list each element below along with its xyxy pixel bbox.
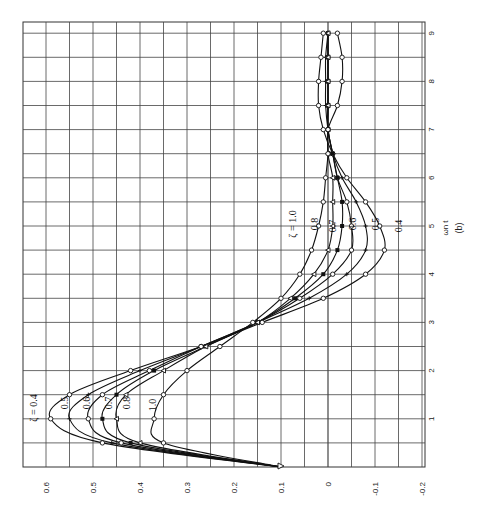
curve-label: 0.4 [393,220,404,233]
marker-circle [340,79,344,83]
time-tick-label: 1 [427,416,436,421]
marker-triangle [330,200,334,205]
x-axis-label: ωn t [441,220,450,236]
marker-plus [364,224,368,228]
value-tick-label: 0.6 [42,481,51,493]
marker-circle [260,320,264,324]
value-tick-label: 0.3 [183,481,192,493]
marker-square [340,200,344,204]
marker-circle [67,393,71,397]
curve-label: ζ = 1.0 [287,210,299,237]
marker-circle [128,368,132,372]
marker-circle [218,344,222,348]
time-tick-label: 2 [427,368,436,373]
figure-caption: (b) [454,222,464,233]
time-tick-label: 3 [427,320,436,325]
curve-label: 0.6 [347,218,358,231]
marker-plus [340,176,344,180]
marker-plus [354,200,358,204]
curve-label: 0.7 [327,220,338,233]
marker-triangle [161,368,165,373]
curve-label: 0.6 [81,397,92,410]
marker-circle [49,417,53,421]
marker-square [293,296,297,300]
marker-plus [138,369,142,373]
marker-circle [382,248,386,252]
marker-circle [279,296,283,300]
time-tick-label: 5 [427,223,436,228]
marker-circle [335,31,339,35]
value-tick-label: 0.4 [136,481,145,493]
marker-square [321,272,325,276]
marker-circle [309,248,313,252]
marker-triangle [326,248,330,253]
marker-circle [345,200,349,204]
marker-circle [340,55,344,59]
curve-labels: ζ = 0.40.50.60.70.81.0ζ = 1.00.80.70.60.… [28,210,404,421]
marker-circle [185,368,189,372]
time-tick-label: 9 [427,30,436,35]
marker-circle [326,127,330,131]
marker-circle [316,103,320,107]
value-tick-label: 0.1 [277,481,286,493]
plot-area: 0.60.50.40.30.20.10-0.1-0.2123456789 ζ =… [0,0,488,514]
marker-square [335,248,339,252]
time-tick-label: 4 [427,271,436,276]
curve-label: ζ = 0.4 [28,394,40,421]
marker-square [129,441,133,445]
time-tick-label: 7 [427,127,436,132]
time-tick-label: 6 [427,175,436,180]
curve-label: 0.8 [121,397,132,410]
marker-circle [86,417,90,421]
marker-square [100,417,104,421]
marker-square [152,369,156,373]
marker-square [331,152,335,156]
marker-circle [298,272,302,276]
marker-circle [251,320,255,324]
marker-circle [335,103,339,107]
x-axis-title: ωn t (b) [441,220,464,236]
curve-label: 0.8 [309,218,320,231]
marker-square [340,224,344,228]
marker-circle [298,296,302,300]
value-tick-label: -0.2 [418,481,427,495]
value-tick-label: 0.5 [89,481,98,493]
marker-circle [321,200,325,204]
marker-plus [364,248,368,252]
marker-circle [316,79,320,83]
marker-triangle [114,416,118,421]
marker-circle [331,272,335,276]
marker-circle [321,296,325,300]
marker-plus [68,417,72,421]
chart: 0.60.50.40.30.20.10-0.1-0.2123456789 ζ =… [0,0,488,514]
marker-circle [100,441,104,445]
marker-circle [147,368,151,372]
value-tick-label: 0 [324,481,333,486]
time-tick-label: 8 [427,79,436,84]
marker-circle [363,272,367,276]
marker-plus [307,296,311,300]
marker-square [115,393,119,397]
marker-circle [161,393,165,397]
marker-triangle [330,175,334,180]
marker-square [335,176,339,180]
marker-circle [161,441,165,445]
curve-label: 0.7 [103,397,114,410]
marker-circle [345,176,349,180]
curve-label: 0.5 [370,218,381,231]
curve-label: 0.5 [59,397,70,410]
marker-circle [363,200,367,204]
marker-circle [349,248,353,252]
marker-circle [323,176,327,180]
value-tick-label: -0.1 [371,481,380,495]
marker-circle [152,417,156,421]
curve-label: 1.0 [147,399,158,412]
marker-circle [319,55,323,59]
marker-circle [326,152,330,156]
value-tick-label: 0.2 [230,481,239,493]
marker-circle [100,393,104,397]
marker-circle [119,441,123,445]
